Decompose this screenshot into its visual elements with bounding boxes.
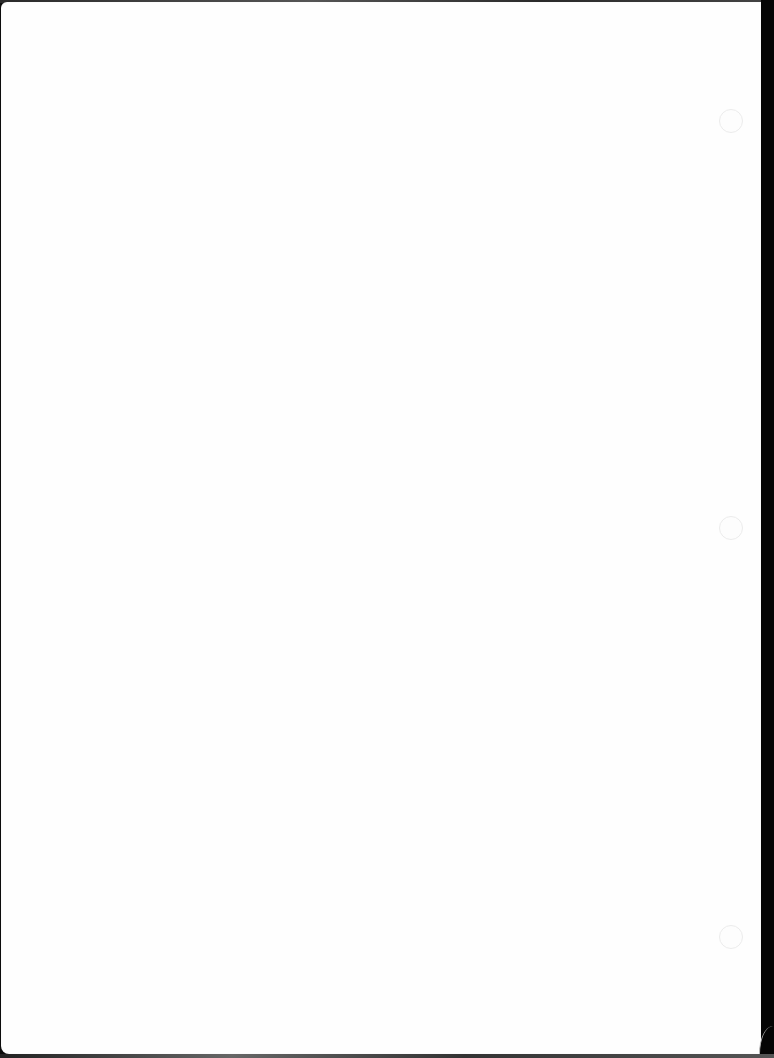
punch-hole-bottom-icon — [719, 925, 743, 949]
punch-hole-top-icon — [719, 109, 743, 133]
bottom-scan-edge — [0, 1054, 774, 1058]
punch-hole-middle-icon — [719, 516, 743, 540]
blank-page — [1, 2, 761, 1054]
scanned-page-container — [0, 0, 774, 1058]
right-scan-edge — [761, 0, 774, 1058]
